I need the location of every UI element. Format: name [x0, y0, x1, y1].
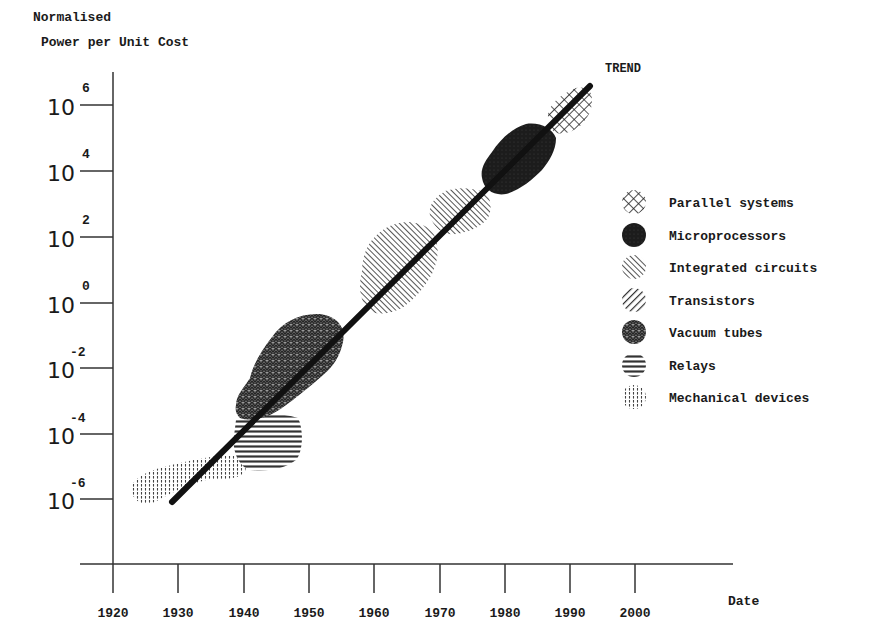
legend-label: Relays — [669, 359, 716, 374]
y-tick-exp: 4 — [82, 147, 90, 162]
x-tick-label: 1970 — [424, 606, 455, 621]
legend-item-mechanical-devices: Mechanical devices — [622, 385, 810, 409]
region-vacuum-tubes — [236, 314, 344, 420]
y-tick-base: 10 — [47, 489, 75, 514]
y-tick-exp: 6 — [82, 81, 90, 96]
region-relays — [234, 414, 302, 470]
chart: 10 6 10 4 10 2 10 0 10 -2 10 -4 10 -6 19… — [0, 0, 891, 639]
legend-label: Vacuum tubes — [669, 326, 763, 341]
legend-item-integrated-circuits: Integrated circuits — [622, 255, 817, 279]
x-tick-label: 1960 — [358, 606, 389, 621]
y-tick-exp: 0 — [82, 279, 90, 294]
diagonal-back-swatch-icon — [622, 255, 646, 279]
y-tick-exp: -6 — [70, 476, 86, 491]
y-axis-title-line1: Normalised — [33, 10, 111, 25]
y-tick-base: 10 — [47, 161, 75, 186]
x-ticks — [178, 564, 635, 593]
x-tick-label: 1990 — [554, 606, 585, 621]
legend-label: Transistors — [669, 294, 755, 309]
herringbone-swatch-icon — [622, 320, 646, 344]
x-tick-label: 1940 — [228, 606, 259, 621]
x-tick-label: 1980 — [489, 606, 520, 621]
y-tick-base: 10 — [47, 358, 75, 383]
trend-label: TREND — [605, 62, 641, 76]
y-tick-base: 10 — [47, 424, 75, 449]
crosshatch-swatch-icon — [622, 190, 646, 214]
trend-line — [172, 86, 590, 502]
y-ticks — [80, 105, 113, 499]
y-tick-exp: 2 — [82, 213, 90, 228]
legend-label: Microprocessors — [669, 229, 786, 244]
y-tick-exp: -4 — [70, 411, 86, 426]
legend-item-vacuum-tubes: Vacuum tubes — [622, 320, 763, 344]
y-tick-exp: -2 — [70, 345, 86, 360]
legend-item-microprocessors: Microprocessors — [622, 223, 786, 247]
legend-item-relays: Relays — [622, 353, 716, 377]
legend-item-transistors: Transistors — [622, 288, 755, 312]
y-tick-base: 10 — [47, 95, 75, 120]
diagonal-forward-swatch-icon — [622, 288, 646, 312]
x-tick-label: 2000 — [619, 606, 650, 621]
y-axis-title-line2: Power per Unit Cost — [41, 35, 189, 50]
x-axis-title: Date — [728, 594, 759, 609]
legend-label: Integrated circuits — [669, 261, 817, 276]
horizontal-lines-swatch-icon — [622, 353, 646, 377]
x-tick-label: 1920 — [97, 606, 128, 621]
legend: Parallel systems Microprocessors Integra… — [622, 190, 817, 409]
legend-label: Parallel systems — [669, 196, 794, 211]
region-mechanical-devices — [131, 455, 246, 504]
vertical-dashes-swatch-icon — [622, 385, 646, 409]
y-tick-base: 10 — [47, 227, 75, 252]
y-tick-base: 10 — [47, 293, 75, 318]
legend-label: Mechanical devices — [669, 391, 810, 406]
x-tick-label: 1930 — [162, 606, 193, 621]
x-tick-label: 1950 — [293, 606, 324, 621]
solid-swatch-icon — [622, 223, 646, 247]
y-tick-labels: 10 6 10 4 10 2 10 0 10 -2 10 -4 10 -6 — [47, 81, 90, 514]
legend-item-parallel-systems: Parallel systems — [622, 190, 794, 214]
x-tick-labels: 1920 1930 1940 1950 1960 1970 1980 1990 … — [97, 606, 650, 621]
